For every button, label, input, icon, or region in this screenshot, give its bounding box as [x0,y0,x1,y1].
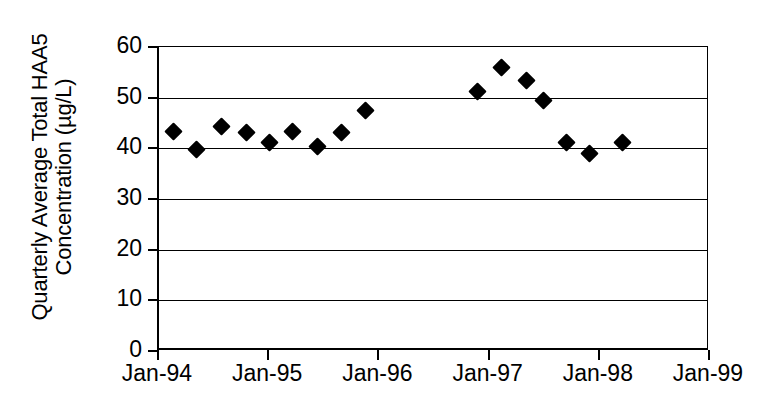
data-point [517,72,535,90]
gridline [159,199,707,200]
y-axis-tick-label: 20 [94,237,142,260]
y-axis-tick-label: 0 [94,338,142,361]
data-point [356,101,374,119]
data-point [283,122,301,140]
x-axis-tick-mark [708,350,710,360]
y-axis-title: Quarterly Average Total HAA5 Concentrati… [22,7,82,347]
plot-area [157,46,708,350]
x-axis-tick-mark [157,350,159,360]
haa5-concentration-chart: Quarterly Average Total HAA5 Concentrati… [0,0,758,412]
x-axis-tick-label: Jan-99 [643,360,758,386]
y-axis-tick-label: 60 [94,34,142,57]
data-point [187,140,205,158]
y-axis-tick-mark [148,249,157,251]
gridline [159,98,707,99]
gridline [159,300,707,301]
x-axis-tick-mark [377,350,379,360]
data-point [165,122,183,140]
data-point [237,123,255,141]
y-axis-tick-labels: 0102030405060 [78,0,142,412]
y-axis-tick-mark [148,97,157,99]
x-axis-tick-mark [598,350,600,360]
gridline [159,250,707,251]
data-point [212,117,230,135]
y-axis-tick-mark [148,198,157,200]
y-axis-tick-mark [148,46,157,48]
y-axis-tick-label: 10 [94,287,142,310]
data-point [534,92,552,110]
x-axis-tick-mark [488,350,490,360]
y-axis-title-line-1: Quarterly Average Total HAA5 [28,33,52,320]
data-point [332,123,350,141]
y-axis-tick-label: 40 [94,135,142,158]
y-axis-tick-label: 30 [94,186,142,209]
data-point [308,137,326,155]
data-point [492,58,510,76]
y-axis-tick-mark [148,350,157,352]
y-axis-tick-mark [148,147,157,149]
y-axis-title-line-2: Concentration (µg/L) [52,79,76,276]
x-axis-tick-mark [267,350,269,360]
y-axis-tick-mark [148,299,157,301]
y-axis-tick-label: 50 [94,85,142,108]
